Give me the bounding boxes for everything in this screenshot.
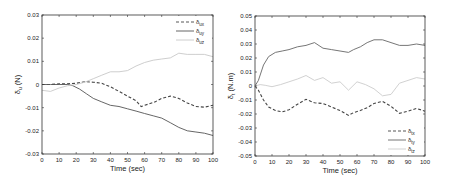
x-tick-label: 20	[73, 157, 80, 163]
x-tick-label: 70	[158, 157, 165, 163]
x-tick-label: 50	[124, 157, 131, 163]
legend: δuxδuyδuz	[174, 16, 212, 46]
x-tick-label: 30	[90, 157, 97, 163]
x-axis-label: Time (sec)	[110, 164, 146, 173]
y-tick-label: 0	[36, 82, 40, 88]
x-tick-label: 80	[175, 157, 182, 163]
x-tick-label: 40	[107, 157, 114, 163]
y-tick-label: -0.01	[25, 105, 39, 111]
x-tick-label: 60	[354, 159, 361, 165]
y-tick-label: 0.01	[27, 58, 39, 64]
x-tick-label: 60	[141, 157, 148, 163]
y-tick-label: -0.04	[238, 139, 252, 145]
series-line-uy	[42, 85, 213, 136]
y-axis-label: δu (N)	[13, 74, 23, 94]
series-line-uz	[42, 53, 213, 91]
left-force-deviation-chart: 0102030405060708090100-0.03-0.02-0.0100.…	[13, 12, 219, 173]
series-line-ty	[255, 40, 425, 86]
y-tick-label: 0.03	[27, 12, 39, 18]
legend: δtxδtyδtz	[386, 125, 424, 155]
y-tick-label: -0.02	[238, 111, 252, 117]
x-tick-label: 10	[269, 159, 276, 165]
y-tick-label: 0.01	[240, 69, 252, 75]
x-tick-label: 50	[337, 159, 344, 165]
y-tick-label: 0.02	[240, 55, 252, 61]
right-torque-deviation-chart: 0102030405060708090100-0.05-0.04-0.03-0.…	[226, 13, 431, 175]
series-line-tx	[255, 86, 425, 115]
chart-canvas: 0102030405060708090100-0.03-0.02-0.0100.…	[0, 0, 449, 180]
x-tick-label: 100	[208, 157, 219, 163]
x-tick-label: 10	[56, 157, 63, 163]
x-axis-label: Time (sec)	[322, 166, 358, 175]
x-tick-label: 20	[286, 159, 293, 165]
y-tick-label: 0.05	[240, 13, 252, 19]
x-tick-label: 100	[420, 159, 431, 165]
x-tick-label: 90	[193, 157, 200, 163]
y-tick-label: 0.04	[240, 27, 252, 33]
y-tick-label: -0.05	[238, 153, 252, 159]
y-tick-label: -0.02	[25, 128, 39, 134]
x-tick-label: 0	[253, 159, 257, 165]
y-tick-label: -0.03	[25, 151, 39, 157]
x-tick-label: 40	[320, 159, 327, 165]
y-axis-label: δt (N.m)	[226, 72, 236, 99]
y-tick-label: 0.02	[27, 35, 39, 41]
y-tick-label: 0	[249, 83, 253, 89]
x-tick-label: 0	[40, 157, 44, 163]
x-tick-label: 30	[303, 159, 310, 165]
y-tick-label: 0.03	[240, 41, 252, 47]
series-line-tz	[255, 76, 425, 96]
y-tick-label: -0.03	[238, 125, 252, 131]
x-tick-label: 70	[371, 159, 378, 165]
x-tick-label: 90	[405, 159, 412, 165]
y-tick-label: -0.01	[238, 97, 252, 103]
x-tick-label: 80	[388, 159, 395, 165]
